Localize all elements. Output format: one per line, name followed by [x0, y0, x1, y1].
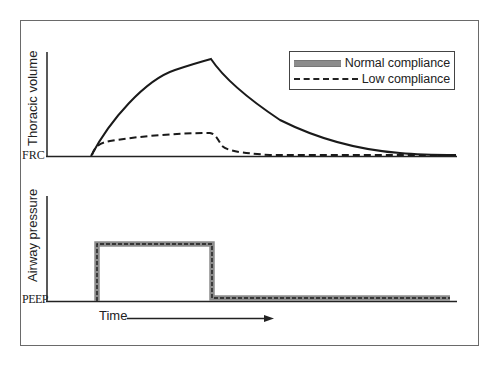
normal-compliance-pressure-curve: [97, 244, 450, 301]
x-axis-label: Time: [99, 308, 127, 323]
normal-compliance-swatch: [294, 60, 341, 67]
low-compliance-volume-curve: [92, 133, 456, 155]
legend-item-low: Low compliance: [294, 72, 450, 86]
legend-label: Normal compliance: [345, 56, 450, 70]
legend-label: Low compliance: [362, 72, 450, 86]
frc-label: FRC: [22, 148, 45, 163]
bottom-axes: [46, 196, 457, 302]
low-compliance-pressure-curve: [97, 244, 450, 301]
top-y-axis-label: Thoracic volume: [25, 51, 40, 146]
bottom-y-axis-label: Airway pressure: [25, 189, 40, 282]
low-compliance-swatch: [294, 78, 358, 80]
legend: Normal compliance Low compliance: [289, 51, 455, 90]
time-arrow: [127, 315, 274, 322]
peep-label: PEEP: [22, 292, 48, 307]
legend-item-normal: Normal compliance: [294, 56, 450, 70]
